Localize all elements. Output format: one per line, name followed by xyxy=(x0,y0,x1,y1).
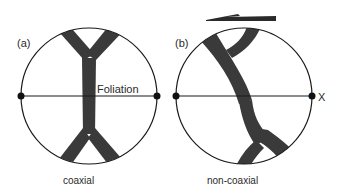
panel-label-a: (a) xyxy=(17,37,30,49)
foliation-label: Foliation xyxy=(97,83,139,95)
diagram-canvas: (a) Foliation coaxial (b) X non-coaxial xyxy=(0,0,339,195)
caption-coaxial: coaxial xyxy=(63,175,94,186)
x-axis-endpoint-left xyxy=(173,93,180,100)
panel-label-b: (b) xyxy=(175,37,188,49)
foliation-endpoint-left xyxy=(18,93,25,100)
vein-arm-lower-left xyxy=(232,140,264,176)
caption-non-coaxial: non-coaxial xyxy=(207,175,258,186)
shear-sense-arrow-icon xyxy=(206,14,276,21)
vein-coaxial xyxy=(52,22,128,172)
vein-arm-lower-right xyxy=(88,128,128,172)
x-axis-label: X xyxy=(318,91,326,103)
x-axis-endpoint-right xyxy=(309,93,316,100)
panel-a: (a) Foliation coaxial xyxy=(17,22,161,186)
foliation-endpoint-right xyxy=(154,93,161,100)
panel-b: (b) X non-coaxial xyxy=(173,14,327,186)
vein-non-coaxial xyxy=(200,22,300,176)
vein-arm-lower-left xyxy=(52,128,90,172)
